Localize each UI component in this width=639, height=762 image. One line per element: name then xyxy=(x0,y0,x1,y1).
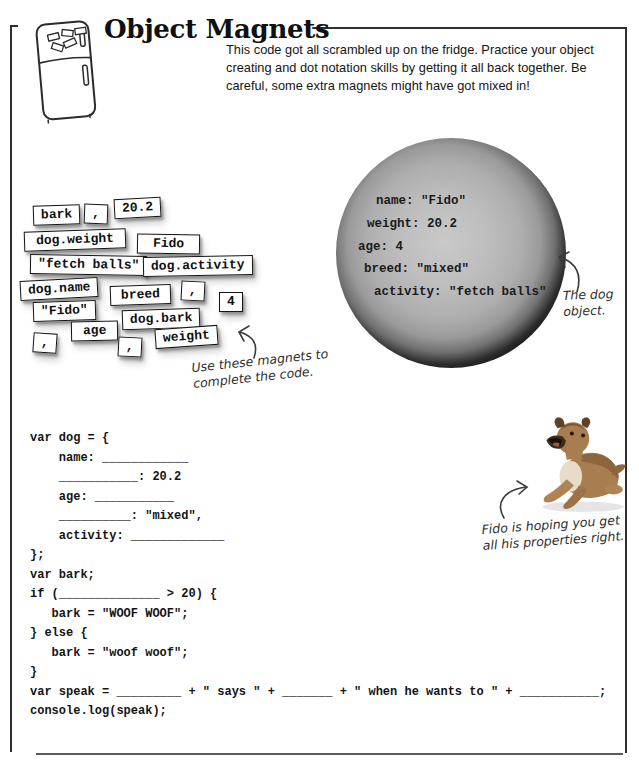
magnet: dog.weight xyxy=(24,228,127,252)
magnet: weight xyxy=(154,325,218,349)
code-line: } xyxy=(30,663,606,683)
intro-text: This code got all scrambled up on the fr… xyxy=(226,41,624,95)
magnet: "Fido" xyxy=(33,300,96,322)
dog-object-caption-line: The dog xyxy=(562,286,613,303)
magnet: dog.name xyxy=(20,277,99,301)
dog-object-property: age: 4 xyxy=(358,240,403,254)
dog-object-property: weight: 20.2 xyxy=(367,217,457,231)
dog-object-property: name: "Fido" xyxy=(376,194,466,208)
code-line: var speak = _________ + " says " + _____… xyxy=(30,683,606,703)
code-line: name: ____________ xyxy=(30,449,606,469)
magnet: breed xyxy=(110,284,172,306)
fridge-icon xyxy=(18,14,110,126)
title-rule xyxy=(312,27,627,29)
magnet: , xyxy=(84,204,108,225)
code-line: var dog = { xyxy=(30,429,606,449)
magnets-caption: Use these magnets to complete the code. xyxy=(191,346,331,391)
magnet: dog.activity xyxy=(143,255,253,277)
code-line: bark = "woof woof"; xyxy=(30,644,606,664)
magnet: 4 xyxy=(219,292,243,312)
code-line: console.log(speak); xyxy=(30,702,606,722)
magnet: , xyxy=(117,336,142,357)
left-border-rule xyxy=(10,25,12,752)
dog-object-property: breed: "mixed" xyxy=(364,262,469,276)
magnet: , xyxy=(180,280,205,301)
code-line: if (______________ > 20) { xyxy=(30,585,606,605)
code-line: ___________: 20.2 xyxy=(30,468,606,488)
magnet: bark xyxy=(33,204,81,226)
dog-object-property: activity: "fetch balls" xyxy=(374,285,547,299)
magnet: , xyxy=(32,332,57,354)
code-line: age: ___________ xyxy=(30,488,606,508)
magnet: Fido xyxy=(137,233,201,254)
magnet: age xyxy=(71,321,119,342)
code-line: bark = "WOOF WOOF"; xyxy=(30,605,606,625)
code-line: } else { xyxy=(30,624,606,644)
magnet: 20.2 xyxy=(114,197,162,219)
magnet: "fetch balls" xyxy=(30,254,148,276)
page-container: Object Magnets This code got all scrambl… xyxy=(0,0,639,762)
dog-object-caption-line: object. xyxy=(563,302,614,319)
page-title: Object Magnets xyxy=(104,14,329,44)
code-line: var bark; xyxy=(30,566,606,586)
dog-object-circle: name: "Fido"weight: 20.2age: 4breed: "mi… xyxy=(336,138,566,368)
right-border-rule xyxy=(625,27,627,753)
dog-object-caption: The dog object. xyxy=(562,286,614,319)
dog-photo xyxy=(526,412,632,514)
code-block: var dog = { name: ____________ _________… xyxy=(30,429,606,722)
bottom-border-rule xyxy=(36,753,623,755)
